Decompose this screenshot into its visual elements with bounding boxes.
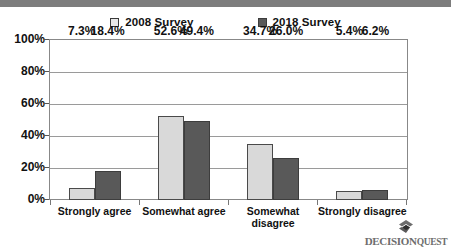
bar-2008-strongly-agree[interactable] [69,188,95,200]
y-axis-label-20: 20% [21,160,45,174]
logo-name-part1: DECISION [365,235,417,247]
y-axis-label-100: 100% [14,32,45,46]
x-axis-label-line: Somewhat [229,205,318,217]
bar-value-2008-strongly-disagree: 5.4% [336,24,363,38]
bar-2008-somewhat-disagree[interactable] [247,144,273,200]
bar-wrap-2008-strongly-agree: 7.3% [69,40,95,200]
bar-wrap-2018-strongly-agree: 18.4% [95,40,121,200]
logo-wordmark: DECISIONQUEST [365,235,448,247]
y-axis-label-80: 80% [21,64,45,78]
x-axis-label-strongly-agree: Strongly agree [50,205,139,229]
top-gray-strip [0,0,451,7]
bar-2008-strongly-disagree[interactable] [336,191,362,200]
bar-2018-strongly-disagree[interactable] [362,190,388,200]
x-axis-label-somewhat-agree: Somewhat agree [139,205,228,229]
y-axis-label-0: 0% [28,192,45,206]
bar-group-strongly-disagree: 5.4% 6.2% [318,40,407,200]
bar-value-2018-strongly-disagree: 6.2% [362,24,389,38]
x-axis-labels: Strongly agree Somewhat agree Somewhat d… [50,205,407,229]
x-axis-label-somewhat-disagree: Somewhat disagree [229,205,318,229]
decisionquest-logo: DECISIONQUEST [368,219,444,247]
y-axis: 100% 80% 60% 40% 20% 0% [0,39,45,200]
bar-groups: 7.3% 18.4% 52.6% 49.4% [50,40,407,200]
bar-wrap-2008-somewhat-disagree: 34.7% [247,40,273,200]
bar-wrap-2018-somewhat-agree: 49.4% [184,40,210,200]
bar-group-somewhat-agree: 52.6% 49.4% [139,40,228,200]
bar-wrap-2018-somewhat-disagree: 26.0% [273,40,299,200]
bar-2018-somewhat-agree[interactable] [184,121,210,200]
x-axis-label-line: disagree [229,217,318,229]
bar-2018-somewhat-disagree[interactable] [273,158,299,200]
bar-wrap-2008-somewhat-agree: 52.6% [158,40,184,200]
x-axis-label-line: Strongly agree [50,205,139,217]
bar-group-strongly-agree: 7.3% 18.4% [50,40,139,200]
logo-name-part2: QUEST [417,237,448,247]
bar-2018-strongly-agree[interactable] [95,171,121,200]
bar-wrap-2018-strongly-disagree: 6.2% [362,40,388,200]
chart-screenshot: 2008 Survey 2018 Survey 100% 80% 60% 40%… [0,0,451,250]
bar-wrap-2008-strongly-disagree: 5.4% [336,40,362,200]
y-axis-label-60: 60% [21,96,45,110]
x-axis-label-line: Somewhat agree [139,205,228,217]
diamond-logo-icon [396,219,416,234]
bar-value-2018-strongly-agree: 18.4% [91,24,125,38]
y-axis-label-40: 40% [21,128,45,142]
bar-value-2018-somewhat-disagree: 26.0% [269,24,303,38]
bar-2008-somewhat-agree[interactable] [158,116,184,200]
bar-group-somewhat-disagree: 34.7% 26.0% [229,40,318,200]
bar-value-2018-somewhat-agree: 49.4% [180,24,214,38]
x-axis-label-line: Strongly disagree [318,205,407,217]
